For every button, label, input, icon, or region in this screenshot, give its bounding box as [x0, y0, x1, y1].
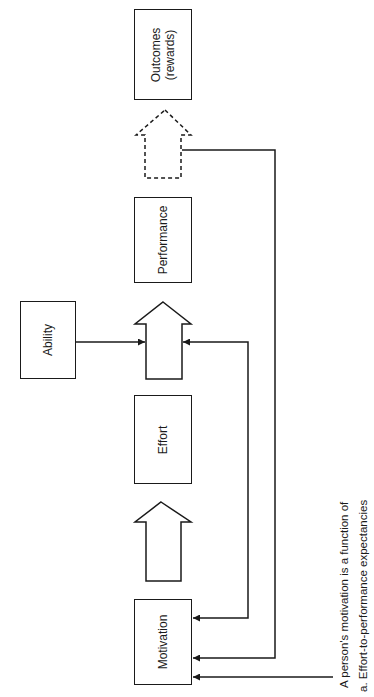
outcomes-box: Outcomes (rewards) [134, 9, 192, 100]
performance-box: Performance [134, 197, 192, 283]
outcomes-label: Outcomes (rewards) [149, 27, 177, 82]
note-line-1: A person's motivation is a function of [338, 502, 350, 688]
motivation-to-effort-arrow-icon [135, 502, 191, 581]
ability-box: Ability [20, 301, 76, 379]
motivation-label: Motivation [156, 615, 170, 670]
motivation-box: Motivation [134, 599, 192, 685]
performance-label: Performance [156, 206, 170, 275]
performance-outcomes-feedback-line [182, 150, 275, 658]
dashed-block-arrow-icon [136, 110, 191, 178]
note-line-2: a. Effort-to-performance expectancies [357, 500, 369, 692]
effort-box: Effort [134, 395, 192, 484]
ability-label: Ability [41, 324, 55, 356]
effort-performance-feedback-line [183, 342, 248, 618]
effort-to-performance-arrow-icon [135, 302, 191, 379]
effort-label: Effort [156, 425, 170, 453]
